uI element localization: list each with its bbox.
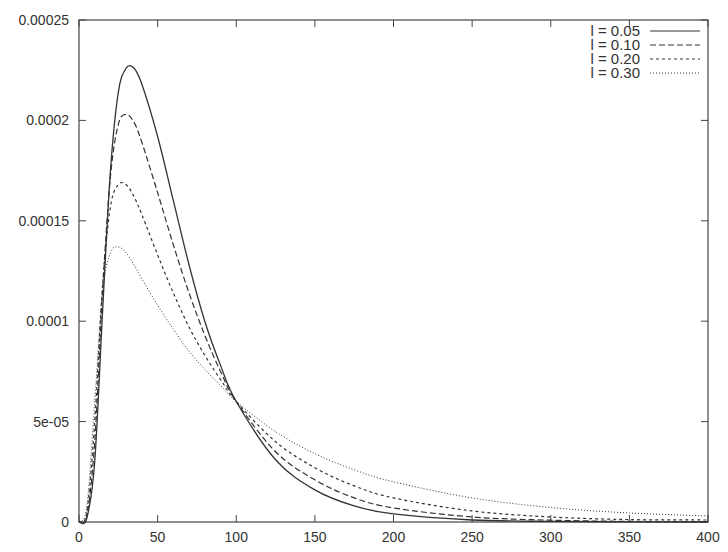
x-tick-label: 150	[303, 529, 327, 545]
plot-frame	[79, 20, 708, 522]
y-tick-label: 5e-05	[33, 414, 69, 430]
x-tick-label: 200	[382, 529, 406, 545]
x-tick-label: 250	[460, 529, 484, 545]
y-tick-label: 0.0001	[26, 313, 69, 329]
chart: 050100150200250300350400 05e-050.00010.0…	[0, 0, 728, 552]
series-line-020	[79, 182, 708, 522]
y-tick-label: 0.00015	[18, 213, 69, 229]
legend-item: l = 0.30	[590, 64, 700, 81]
legend: l = 0.05l = 0.10l = 0.20l = 0.30	[590, 22, 700, 81]
y-tick-label: 0.00025	[18, 12, 69, 28]
y-tick-label: 0.0002	[26, 112, 69, 128]
x-axis: 050100150200250300350400	[75, 20, 720, 545]
y-tick-label: 0	[61, 514, 69, 530]
x-tick-label: 100	[225, 529, 249, 545]
y-axis: 05e-050.00010.000150.00020.00025	[18, 12, 708, 530]
series-line-030	[79, 247, 708, 522]
series-line-010	[79, 114, 708, 523]
x-tick-label: 400	[696, 529, 720, 545]
series-line-005	[79, 66, 708, 524]
x-tick-label: 50	[150, 529, 166, 545]
x-tick-label: 300	[539, 529, 563, 545]
x-tick-label: 350	[618, 529, 642, 545]
legend-label: l = 0.30	[590, 64, 640, 81]
x-tick-label: 0	[75, 529, 83, 545]
series-lines	[79, 66, 708, 524]
